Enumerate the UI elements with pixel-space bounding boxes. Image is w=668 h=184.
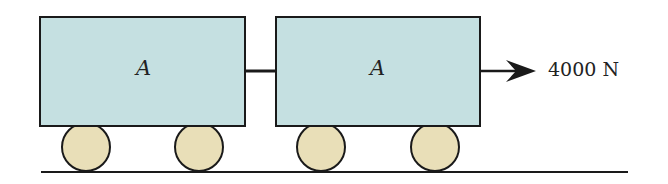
- car-1-label: A: [136, 56, 151, 80]
- wheel: [62, 123, 110, 171]
- car-1-wheels: [62, 123, 223, 171]
- car-2-wheels: [297, 123, 459, 171]
- wheel: [411, 123, 459, 171]
- car-2-label: A: [370, 56, 385, 80]
- two-car-train-diagram: [0, 0, 668, 184]
- force-label: 4000 N: [548, 58, 619, 80]
- wheel: [175, 123, 223, 171]
- wheel: [297, 123, 345, 171]
